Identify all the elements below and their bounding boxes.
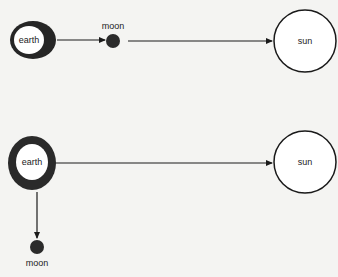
earth-label-bottom: earth [22, 157, 43, 167]
moon-label-top: moon [102, 21, 125, 31]
sun-top: sun [274, 10, 336, 72]
moon-top: moon [102, 21, 125, 48]
earth-top: earth [10, 21, 56, 59]
sun-label-bottom: sun [298, 157, 313, 167]
bottom-diagram: earth sun moon [8, 131, 336, 268]
top-diagram: earth moon sun [10, 10, 336, 72]
sun-label-top: sun [298, 36, 313, 46]
sun-bottom: sun [274, 131, 336, 193]
earth-label-top: earth [19, 35, 40, 45]
moon-bottom: moon [26, 240, 49, 268]
earth-bottom: earth [8, 136, 56, 190]
moon-label-bottom: moon [26, 258, 49, 268]
earth-moon-sun-diagram: earth moon sun earth sun [0, 0, 338, 277]
